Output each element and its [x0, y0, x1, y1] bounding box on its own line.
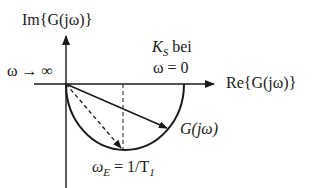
- real-axis-label: Re{G(jω)}: [226, 74, 296, 92]
- g-vector-arrow: [66, 84, 167, 128]
- omega-e-label: ωE = 1/T1: [92, 158, 155, 178]
- ks-label: KS bei: [151, 38, 192, 58]
- imag-axis-label: Im{G(jω)}: [22, 11, 92, 29]
- omega-zero-label: ω = 0: [153, 59, 189, 76]
- g-function-label: G(jω): [180, 120, 218, 138]
- nyquist-locus-semicircle: [66, 84, 184, 150]
- omega-infinity-label: ω → ∞: [7, 62, 53, 79]
- nyquist-diagram: Im{G(jω)} Re{G(jω)} ω → ∞ KS bei ω = 0 G…: [0, 0, 313, 188]
